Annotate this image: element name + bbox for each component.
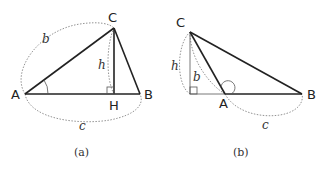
vertex-label-C: C xyxy=(176,15,185,30)
vertex-label-B: B xyxy=(144,87,153,102)
vertex-label-A: A xyxy=(11,87,20,102)
vertex-label-A: A xyxy=(219,96,228,111)
caption-a: (a) xyxy=(74,146,89,159)
figure-a: C A B H b h c (a) xyxy=(11,10,153,159)
arc-c xyxy=(25,94,141,122)
right-angle-foot xyxy=(190,87,197,94)
side-label-b: b xyxy=(193,70,201,84)
angle-A-mark xyxy=(44,80,48,94)
side-label-b: b xyxy=(42,32,50,46)
vertex-label-H: H xyxy=(109,98,119,113)
arc-h xyxy=(108,28,114,94)
arc-h xyxy=(180,32,191,94)
side-label-h: h xyxy=(98,58,106,72)
figure-b: C A B h b c (b) xyxy=(171,15,316,159)
right-angle-H xyxy=(107,87,114,94)
vertex-label-B: B xyxy=(307,87,316,102)
triangle-diagram: C A B H b h c (a) C A B h b c (b) xyxy=(0,0,326,170)
side-label-h: h xyxy=(171,59,179,73)
vertex-label-C: C xyxy=(108,10,117,25)
arc-c xyxy=(225,94,302,116)
side-label-c: c xyxy=(262,118,269,132)
side-CB xyxy=(114,28,140,94)
side-label-c: c xyxy=(79,119,86,133)
caption-b: (b) xyxy=(233,146,249,159)
